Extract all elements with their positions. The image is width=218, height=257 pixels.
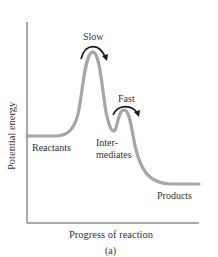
figure-caption: (a): [105, 245, 116, 256]
intermediates-label-line1: Inter-: [96, 137, 118, 148]
slow-label: Slow: [83, 31, 104, 42]
energy-curve: [27, 52, 199, 184]
fast-label: Fast: [118, 93, 135, 104]
products-label: Products: [157, 190, 192, 201]
energy-diagram: [0, 0, 218, 257]
y-axis-label: Potential energy: [6, 102, 17, 170]
x-axis-label: Progress of reaction: [69, 229, 153, 240]
reactants-label: Reactants: [32, 142, 71, 153]
intermediates-label-line2: mediates: [96, 149, 132, 160]
